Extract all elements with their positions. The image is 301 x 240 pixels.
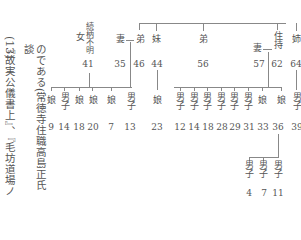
connector bbox=[51, 87, 52, 91]
children-line-46 bbox=[111, 87, 131, 88]
connector bbox=[268, 52, 269, 88]
age-36: 36 bbox=[270, 123, 286, 132]
child-daughter: 娘 bbox=[88, 96, 98, 105]
grandchildren-line bbox=[249, 157, 279, 158]
connector bbox=[89, 73, 90, 88]
child-daughter: 娘 bbox=[46, 96, 56, 105]
connector bbox=[221, 87, 222, 91]
child-son: 男子 bbox=[229, 92, 239, 110]
age-33: 33 bbox=[255, 123, 271, 132]
children-line-62 bbox=[174, 87, 282, 88]
marriage-line bbox=[126, 40, 134, 41]
child-son: 男子 bbox=[243, 92, 253, 110]
connector bbox=[277, 23, 278, 30]
member-abbot: 住持 bbox=[273, 31, 283, 49]
age-39: 39 bbox=[289, 123, 301, 132]
member-wife-of-abbot: 妻 bbox=[252, 44, 262, 53]
child-son: 男子 bbox=[60, 92, 70, 110]
age-7: 7 bbox=[103, 123, 119, 132]
connector bbox=[130, 42, 131, 88]
body-text-column-2: 『故実公儀書上』、『毛坊道場ノ bbox=[3, 44, 15, 197]
child-son: 男子 bbox=[292, 92, 301, 110]
child-daughter: 娘 bbox=[257, 96, 267, 105]
member-woman: 女 bbox=[75, 33, 85, 42]
connector bbox=[207, 87, 208, 91]
connector bbox=[194, 87, 195, 91]
age-13: 13 bbox=[122, 123, 138, 132]
grandchild-son: 男子 bbox=[273, 160, 283, 178]
member-wife: 妻 bbox=[115, 35, 125, 44]
connector bbox=[92, 87, 93, 91]
age-46: 46 bbox=[131, 60, 147, 69]
child-daughter: 娘 bbox=[106, 96, 116, 105]
age-41: 41 bbox=[80, 60, 96, 69]
age-35: 35 bbox=[112, 60, 128, 69]
age-64: 64 bbox=[288, 60, 301, 69]
age-44: 44 bbox=[149, 60, 165, 69]
connector bbox=[234, 87, 235, 91]
connector bbox=[139, 23, 140, 30]
connector bbox=[180, 87, 181, 91]
age-14: 14 bbox=[56, 123, 72, 132]
age-11: 11 bbox=[270, 189, 286, 198]
grandchild-son: 男子 bbox=[258, 160, 268, 178]
child-son: 男子 bbox=[202, 92, 212, 110]
child-son: 男子 bbox=[216, 92, 226, 110]
child-son: 男子 bbox=[175, 92, 185, 110]
connector bbox=[248, 87, 249, 91]
child-daughter: 娘 bbox=[152, 96, 162, 105]
connector bbox=[64, 87, 65, 91]
age-20: 20 bbox=[85, 123, 101, 132]
child-son: 男子 bbox=[189, 92, 199, 110]
connector bbox=[262, 87, 263, 91]
connector bbox=[157, 70, 158, 90]
connector bbox=[111, 87, 112, 91]
member-younger-brother-2: 弟 bbox=[198, 35, 208, 44]
sibling-line bbox=[139, 23, 286, 24]
member-unknown-relation-note: 続柄不明 bbox=[84, 22, 93, 54]
connector bbox=[278, 134, 279, 158]
member-younger-brother: 弟 bbox=[135, 35, 145, 44]
member-younger-sister: 妹 bbox=[151, 35, 161, 44]
connector bbox=[156, 23, 157, 31]
marriage-line bbox=[263, 49, 272, 50]
age-23: 23 bbox=[149, 123, 165, 132]
connector bbox=[281, 87, 282, 91]
grandchild-son: 男子 bbox=[244, 160, 254, 178]
connector bbox=[296, 70, 297, 90]
child-son: 男子 bbox=[126, 92, 136, 110]
age-62: 62 bbox=[269, 60, 285, 69]
child-daughter: 娘 bbox=[74, 96, 84, 105]
age-56: 56 bbox=[195, 60, 211, 69]
age-57: 57 bbox=[251, 60, 267, 69]
member-elder-sister: 姉 bbox=[291, 35, 301, 44]
age-4: 4 bbox=[241, 189, 257, 198]
child-daughter: 娘 bbox=[276, 96, 286, 105]
connector bbox=[296, 23, 297, 31]
connector bbox=[203, 23, 204, 31]
connector bbox=[79, 87, 80, 91]
